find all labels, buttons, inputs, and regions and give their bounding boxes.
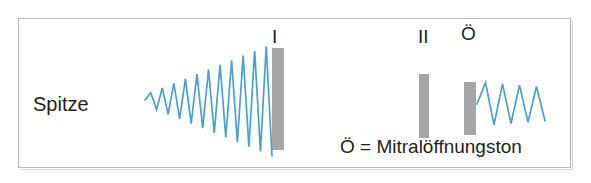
heart-sound-bar-i: [272, 48, 284, 150]
heart-sound-label-first: I: [272, 27, 277, 46]
murmur-wave-1: [145, 46, 272, 156]
heart-sound-label-second: II: [418, 27, 429, 46]
murmur-wave-2: [477, 83, 545, 125]
auscultation-site-label: Spitze: [33, 94, 89, 114]
sound-bars-group: [272, 48, 476, 150]
heart-sound-bar-ö: [464, 82, 476, 135]
heart-sound-bar-ii: [419, 74, 429, 138]
figure-legend: Ö = Mitralöffnungston: [340, 137, 522, 156]
heart-sound-label-opening-snap: Ö: [461, 24, 476, 43]
phonocardiogram-figure: Spitze I II Ö Ö = Mitralöffnungston: [0, 0, 591, 183]
